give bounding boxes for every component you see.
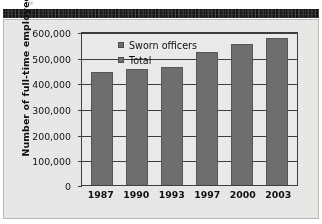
chart-figure: Number of full-time employees 600,000 50… [3,19,319,219]
ytick-label-400000: 400,000 [32,79,71,90]
plot-area: 600,000 500,000 400,000 300,000 200,000 … [81,32,298,186]
ytick-label-500000: 500,000 [32,53,71,64]
y-axis-title: Number of full-time employees [20,7,31,157]
ytick-label-200000: 200,000 [32,130,71,141]
scanned-page: Number of full-time employees 600,000 50… [0,0,322,224]
ytick-label-600000: 600,000 [32,28,71,39]
bar-1993[interactable] [161,67,183,185]
xtick-label-1990: 1990 [119,189,155,200]
legend-swatch-icon [118,57,124,63]
xtick-label-1997: 1997 [190,189,226,200]
bar-1997[interactable] [196,52,218,185]
bar-slot [225,33,260,185]
ytick-label-0: 0 [65,181,71,192]
legend-swatch-icon [118,42,124,48]
bar-slot [260,33,295,185]
header-rule-band [3,9,319,18]
ytick-label-100000: 100,000 [32,156,71,167]
bar-2003[interactable] [266,38,288,185]
legend-item-sworn-officers[interactable]: Sworn officers [118,39,197,51]
xtick-label-2000: 2000 [225,189,261,200]
x-axis-tick-labels: 1987 1990 1993 1997 2000 2003 [81,189,298,200]
legend-label: Sworn officers [129,40,197,51]
xtick-label-1993: 1993 [154,189,190,200]
chart-legend: Sworn officers Total [118,39,197,66]
bar-2000[interactable] [231,44,253,185]
legend-label: Total [129,55,151,66]
bar-1987[interactable] [91,72,113,186]
xtick-label-2003: 2003 [261,189,297,200]
ytick-label-300000: 300,000 [32,105,71,116]
ytick-0: 0 [78,186,82,187]
bar-slot [84,33,119,185]
xtick-label-1987: 1987 [83,189,119,200]
legend-item-total[interactable]: Total [118,54,197,66]
bar-1990[interactable] [126,69,148,185]
